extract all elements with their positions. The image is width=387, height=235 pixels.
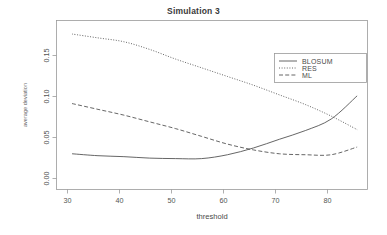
y-tick-label-0: 0.00 xyxy=(42,172,51,186)
series-line-blosum xyxy=(72,96,357,159)
x-tick-label-1: 40 xyxy=(116,196,124,205)
x-tick-label-3: 60 xyxy=(220,196,228,205)
x-tick-label-0: 30 xyxy=(64,196,72,205)
legend-label-blosum: BLOSUM xyxy=(302,58,333,65)
y-axis: 0.00 0.05 0.10 0.15 xyxy=(42,49,57,186)
data-series-layer xyxy=(72,34,357,159)
x-axis: 30 40 50 60 70 80 xyxy=(64,190,332,206)
x-tick-label-5: 80 xyxy=(324,196,332,205)
y-tick-label-3: 0.15 xyxy=(42,49,51,63)
y-tick-label-2: 0.10 xyxy=(42,90,51,104)
chart-figure: Simulation 3 0.00 0.05 0.10 0.15 average… xyxy=(0,0,387,235)
y-axis-title: average deviation xyxy=(22,83,28,127)
x-tick-label-2: 50 xyxy=(168,196,176,205)
y-tick-label-1: 0.05 xyxy=(42,131,51,145)
legend: BLOSUM RES ML xyxy=(275,54,367,83)
x-tick-label-4: 70 xyxy=(272,196,280,205)
legend-label-res: RES xyxy=(302,65,317,72)
plot-box xyxy=(57,21,368,190)
series-line-ml xyxy=(72,104,357,156)
plot-canvas: 0.00 0.05 0.10 0.15 average deviation 30… xyxy=(0,0,387,235)
x-axis-title: threshold xyxy=(196,212,227,221)
legend-label-ml: ML xyxy=(302,72,312,79)
